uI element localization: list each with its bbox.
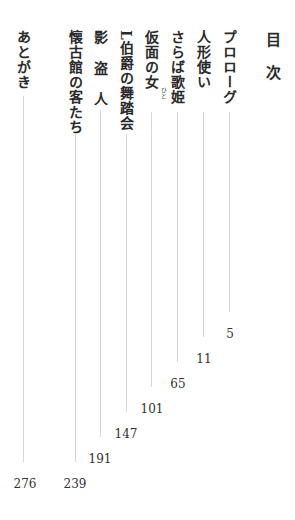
toc-entry-page: 191: [89, 453, 112, 465]
toc-entry-title[interactable]: 仮面の女: [143, 30, 159, 90]
ruby-annotation: ひと: [160, 87, 166, 99]
leader-line: [203, 112, 204, 337]
toc-entry-title[interactable]: プロローグ: [221, 30, 237, 105]
toc-entry-title[interactable]: 影 盗 人: [92, 30, 108, 112]
toc-entry-title[interactable]: 懐古館の客たち: [67, 30, 83, 135]
leader-line: [75, 134, 76, 462]
toc-entry-page: 101: [141, 403, 164, 415]
toc-entry-title[interactable]: 人形使い: [195, 30, 211, 90]
leader-line: [100, 110, 101, 437]
leader-line: [151, 112, 152, 387]
toc-entry-page: 276: [14, 478, 37, 490]
leader-line: [229, 112, 230, 312]
toc-entry-title[interactable]: あとがき: [15, 30, 31, 90]
leader-line: [126, 134, 127, 412]
toc-entry-page: 11: [196, 353, 211, 365]
toc-entry-page: 239: [64, 478, 87, 490]
toc-entry-title[interactable]: さらば歌姫: [169, 30, 185, 105]
toc-heading: 目次: [262, 32, 283, 98]
toc-entry-page: 65: [170, 378, 185, 390]
toc-entry-title[interactable]: L伯爵の舞踏会: [118, 30, 134, 131]
leader-line: [177, 112, 178, 362]
toc-entry-page: 147: [115, 428, 138, 440]
leader-line: [23, 96, 24, 462]
toc-entry-page: 5: [226, 328, 234, 340]
